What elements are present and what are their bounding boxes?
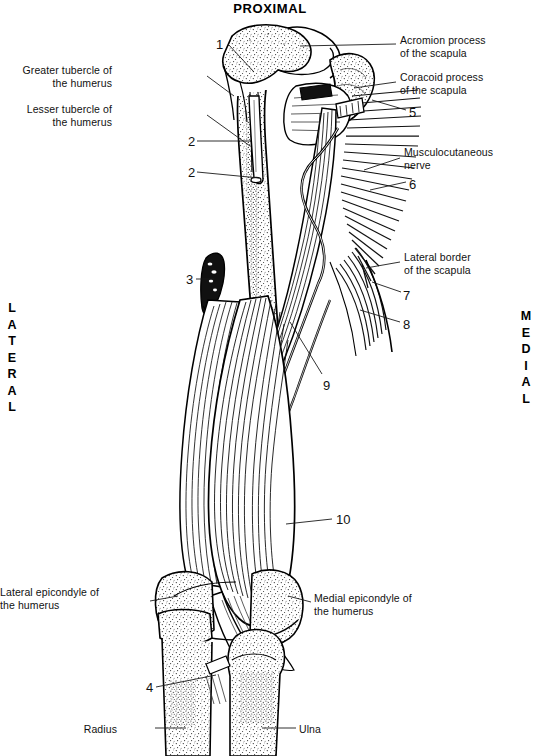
callout-number-6: 6 [409, 178, 416, 191]
callout-number-9: 9 [323, 379, 330, 392]
label-ulna: Ulna [299, 723, 321, 736]
callout-number-4: 4 [146, 681, 153, 694]
label-acromion-process-of-the-scapula: Acromion process of the scapula [400, 34, 486, 59]
label-lateral-epicondyle-of-the-humerus: Lateral epicondyle of the humerus [0, 586, 44, 611]
ulna-bone [228, 630, 285, 756]
label-musculocutaneous-nerve: Musculocutaneous nerve [404, 146, 493, 171]
label-radius: Radius [0, 723, 117, 736]
callout-number-7: 7 [403, 289, 410, 302]
callout-number-8: 8 [403, 318, 410, 331]
callout-number-5: 5 [409, 106, 416, 119]
callout-number-3: 3 [186, 273, 193, 286]
callout-number-1: 1 [216, 38, 223, 51]
label-greater-tubercle-of-the-humerus: Greater tubercle of the humerus [0, 64, 112, 89]
callout-number-10: 10 [336, 513, 350, 526]
label-coracoid-process-of-the-scapula: Coracoid process of the scapula [400, 71, 483, 96]
figure-canvas: PROXIMAL LATERAL MEDIAL [0, 0, 540, 756]
radius-bone [158, 610, 212, 756]
callout-number-2-lower: 2 [188, 166, 195, 179]
label-lesser-tubercle-of-the-humerus: Lesser tubercle of the humerus [0, 103, 112, 128]
callout-number-2-upper: 2 [188, 135, 195, 148]
label-medial-epicondyle-of-the-humerus: Medial epicondyle of the humerus [314, 592, 412, 617]
label-lateral-border-of-the-scapula: Lateral border of the scapula [404, 251, 471, 276]
